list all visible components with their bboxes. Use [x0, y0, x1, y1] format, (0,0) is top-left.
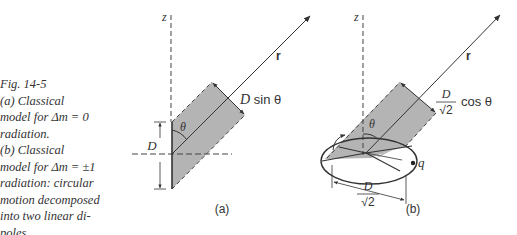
Dcos-rest: cos θ: [461, 94, 492, 109]
r-label-b: r: [466, 49, 471, 63]
theta-label-a: θ: [180, 120, 186, 134]
D-sin-rest: sin θ: [250, 92, 281, 107]
Dcos-den: √2: [439, 103, 453, 117]
D-sin-D: D: [239, 92, 250, 107]
z-label-b: z: [353, 10, 359, 24]
D-sin-theta-label: D sin θ: [239, 92, 281, 107]
Dcos-num: D: [441, 87, 451, 101]
r-vector-b: [366, 15, 500, 153]
r-label-a: r: [276, 49, 281, 63]
r-vector-a: [172, 16, 310, 154]
theta-label-b: θ: [369, 117, 375, 131]
diameter-den: √2: [361, 195, 375, 209]
diagram-b: z r θ q D √2 cos θ D √2 (b): [321, 10, 500, 216]
D-label-a: D: [146, 138, 157, 153]
figure-diagrams: z r θ D D sin θ (a): [0, 0, 517, 235]
panel-label-b: (b): [406, 202, 421, 216]
q-label: q: [418, 155, 425, 170]
z-label-a: z: [161, 10, 167, 24]
diameter-num: D: [363, 179, 373, 193]
panel-label-a: (a): [215, 202, 230, 216]
charge-q: [411, 161, 415, 165]
Dcos-text: cos θ: [461, 94, 492, 109]
diagram-a: z r θ D D sin θ (a): [132, 10, 310, 216]
